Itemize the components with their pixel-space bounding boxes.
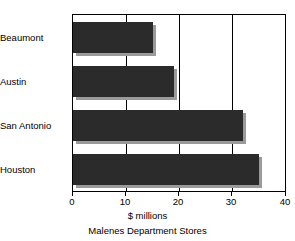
xtick-label-40: 40 <box>270 196 295 207</box>
xtick-label-0: 0 <box>57 196 87 207</box>
chart-caption: Malenes Department Stores <box>0 225 295 236</box>
category-label-houston: Houston <box>0 164 66 175</box>
bar-beaumont[interactable] <box>73 22 153 53</box>
category-label-san-antonio: San Antonio <box>0 120 66 131</box>
bar-houston[interactable] <box>73 154 259 185</box>
bar-chart: Beaumont Austin San Antonio Houston 0 10… <box>0 0 295 241</box>
bar-san-antonio[interactable] <box>73 110 243 141</box>
x-axis-title: $ millions <box>0 210 295 221</box>
xtick-label-10: 10 <box>110 196 140 207</box>
bar-austin[interactable] <box>73 66 174 97</box>
plot-area <box>72 14 286 192</box>
xtick-label-20: 20 <box>163 196 193 207</box>
category-label-beaumont: Beaumont <box>0 32 66 43</box>
xtick-label-30: 30 <box>216 196 246 207</box>
category-label-austin: Austin <box>0 76 66 87</box>
